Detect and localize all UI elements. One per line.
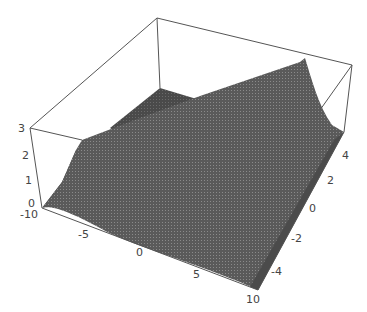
svg-text:-2: -2 bbox=[291, 232, 302, 245]
svg-text:2: 2 bbox=[22, 149, 29, 162]
svg-text:2: 2 bbox=[327, 174, 334, 187]
svg-text:4: 4 bbox=[342, 149, 349, 162]
svg-text:-5: -5 bbox=[78, 228, 89, 241]
svg-text:5: 5 bbox=[193, 268, 200, 281]
surface-plot: 3 2 1 0 -10 -5 0 5 10 -4 -2 0 2 4 bbox=[0, 0, 367, 312]
z-axis-labels: 3 2 1 0 bbox=[18, 122, 35, 210]
svg-text:0: 0 bbox=[136, 246, 143, 259]
svg-text:0: 0 bbox=[309, 202, 316, 215]
svg-text:3: 3 bbox=[18, 122, 25, 135]
svg-text:1: 1 bbox=[25, 174, 32, 187]
svg-text:10: 10 bbox=[246, 293, 260, 306]
surface-main bbox=[42, 58, 344, 290]
svg-text:-10: -10 bbox=[20, 208, 38, 221]
svg-text:-4: -4 bbox=[271, 265, 282, 278]
